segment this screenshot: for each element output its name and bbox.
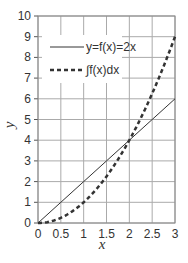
y-tick-label: 8 <box>24 50 31 64</box>
y-tick-label: 0 <box>24 216 31 230</box>
x-tick-label: 2 <box>126 227 133 241</box>
y-tick-label: 2 <box>24 175 31 189</box>
legend-label-solid: y=f(x)=2x <box>86 40 136 54</box>
x-tick-label: 3 <box>172 227 179 241</box>
x-tick-label: 0 <box>35 227 42 241</box>
legend-label-dashed: ∫f(x)dx <box>85 63 119 77</box>
legend: y=f(x)=2x ∫f(x)dx <box>42 35 136 83</box>
x-tick-label: 2.5 <box>144 227 161 241</box>
y-tick-label: 10 <box>18 9 32 23</box>
y-tick-label: 3 <box>24 154 31 168</box>
y-tick-label: 5 <box>24 113 31 127</box>
line-chart: 00.511.522.53012345678910 y=f(x)=2x ∫f(x… <box>0 0 188 263</box>
x-axis-label: x <box>98 236 106 252</box>
y-tick-label: 4 <box>24 133 31 147</box>
y-tick-label: 6 <box>24 92 31 106</box>
x-tick-label: 1 <box>80 227 87 241</box>
y-tick-label: 7 <box>24 71 31 85</box>
y-tick-label: 1 <box>24 195 31 209</box>
x-tick-label: 0.5 <box>52 227 69 241</box>
y-axis-label: y <box>1 121 17 130</box>
y-tick-label: 9 <box>24 30 31 44</box>
